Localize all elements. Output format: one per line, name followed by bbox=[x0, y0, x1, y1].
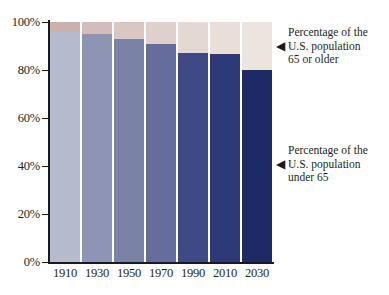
x-axis-tick-label: 1930 bbox=[82, 266, 112, 281]
bar-segment-under-65 bbox=[50, 32, 80, 262]
x-axis-tick-label: 2030 bbox=[242, 266, 272, 281]
x-axis-labels: 1910193019501970199020102030 bbox=[50, 266, 272, 281]
y-axis-tick bbox=[42, 214, 49, 215]
bar-column bbox=[210, 22, 240, 262]
annotation-under-65: ◀ Percentage of the U.S. population unde… bbox=[276, 144, 368, 185]
x-axis-tick-label: 1910 bbox=[50, 266, 80, 281]
y-axis-tick-label: 80% bbox=[4, 64, 40, 76]
bar-segment-under-65 bbox=[178, 53, 208, 262]
x-axis-tick-label: 1970 bbox=[146, 266, 176, 281]
bar-segment-65-or-older bbox=[146, 22, 176, 44]
bar-segment-under-65 bbox=[114, 39, 144, 262]
bar-segment-65-or-older bbox=[242, 22, 272, 70]
bar-segment-65-or-older bbox=[178, 22, 208, 53]
bar-segment-65-or-older bbox=[82, 22, 112, 34]
bar-segment-65-or-older bbox=[50, 22, 80, 32]
y-axis-tick-label: 0% bbox=[4, 256, 40, 268]
annotation-under-65-text: Percentage of the U.S. population under … bbox=[288, 144, 368, 185]
annotation-line: U.S. population bbox=[288, 40, 368, 54]
bar-column bbox=[114, 22, 144, 262]
x-axis-line bbox=[48, 262, 274, 264]
bar-column bbox=[242, 22, 272, 262]
stacked-bar-chart: 100%80%60%40%20%0% 191019301950197019902… bbox=[0, 0, 389, 295]
bar-segment-65-or-older bbox=[210, 22, 240, 54]
y-axis-tick bbox=[42, 70, 49, 71]
x-axis-tick-label: 1990 bbox=[178, 266, 208, 281]
bar-segment-65-or-older bbox=[114, 22, 144, 39]
annotation-line: Percentage of the bbox=[288, 144, 368, 158]
annotation-line: U.S. population bbox=[288, 158, 368, 172]
bar-series-container bbox=[50, 22, 272, 262]
y-axis-tick bbox=[42, 22, 49, 23]
x-axis-tick-label: 1950 bbox=[114, 266, 144, 281]
y-axis-tick-label: 100% bbox=[4, 16, 40, 28]
bar-segment-under-65 bbox=[242, 70, 272, 262]
bar-column bbox=[146, 22, 176, 262]
annotation-line: Percentage of the bbox=[288, 26, 368, 40]
annotation-line: 65 or older bbox=[288, 53, 368, 67]
y-axis-tick bbox=[42, 118, 49, 119]
left-triangle-icon: ◀ bbox=[276, 158, 285, 170]
y-axis-tick bbox=[42, 262, 49, 263]
bar-segment-under-65 bbox=[146, 44, 176, 262]
left-triangle-icon: ◀ bbox=[276, 40, 285, 52]
annotation-65-or-older: ◀ Percentage of the U.S. population 65 o… bbox=[276, 26, 368, 67]
bar-column bbox=[50, 22, 80, 262]
bar-segment-under-65 bbox=[210, 54, 240, 262]
annotation-line: under 65 bbox=[288, 171, 368, 185]
y-axis-tick-label: 60% bbox=[4, 112, 40, 124]
annotation-65-or-older-text: Percentage of the U.S. population 65 or … bbox=[288, 26, 368, 67]
y-axis-tick-label: 40% bbox=[4, 160, 40, 172]
bar-column bbox=[178, 22, 208, 262]
bar-segment-under-65 bbox=[82, 34, 112, 262]
bar-column bbox=[82, 22, 112, 262]
y-axis-tick bbox=[42, 166, 49, 167]
x-axis-tick-label: 2010 bbox=[210, 266, 240, 281]
y-axis-tick-label: 20% bbox=[4, 208, 40, 220]
